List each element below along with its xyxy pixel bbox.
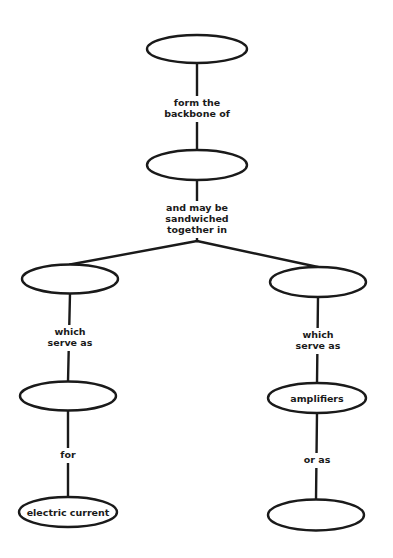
concept-node-amplifiers: amplifiers: [268, 383, 366, 413]
link-label-text: backbone of: [164, 108, 231, 119]
link-label: whichserve as: [289, 328, 347, 354]
node-ellipse: [147, 35, 247, 63]
branch-connector-line: [70, 241, 197, 265]
link-label-text: and may be: [166, 202, 228, 213]
link-label-text: together in: [167, 224, 227, 235]
link-label: or as: [298, 453, 337, 468]
link-label: for: [55, 448, 82, 463]
concept-node-empty: [147, 150, 247, 180]
link-label-text: form the: [174, 97, 220, 108]
concept-node-empty: [270, 267, 366, 297]
link-label-text: for: [60, 449, 76, 460]
link-label-text: serve as: [296, 340, 341, 351]
branch-connector-line: [197, 241, 318, 267]
concept-node-electric-current: electric current: [19, 497, 117, 527]
node-ellipse: [270, 267, 366, 297]
link-label-text: which: [302, 329, 333, 340]
link-label-text: which: [54, 326, 85, 337]
node-ellipse: [268, 500, 364, 531]
node-ellipse: [147, 150, 247, 180]
node-label: electric current: [27, 507, 110, 518]
concept-node-empty: [20, 382, 116, 411]
link-label-text: or as: [304, 454, 331, 465]
concept-node-empty: [22, 265, 118, 294]
node-ellipse: [20, 382, 116, 411]
concept-node-empty: [147, 35, 247, 63]
link-label-text: sandwiched: [165, 213, 228, 224]
node-ellipse: [22, 265, 118, 294]
node-label: amplifiers: [290, 393, 344, 404]
concept-map-diagram: form thebackbone ofand may besandwichedt…: [0, 0, 393, 558]
link-label: form thebackbone of: [159, 96, 235, 122]
link-label: and may besandwichedtogether in: [159, 201, 235, 238]
concept-node-empty: [268, 500, 364, 531]
link-label: whichserve as: [41, 325, 99, 351]
link-label-text: serve as: [48, 337, 93, 348]
